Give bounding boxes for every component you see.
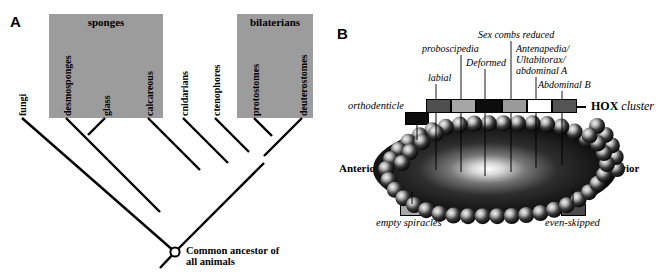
ancestor-label-line2: all animals xyxy=(186,256,235,268)
figure-root: A sponges bilaterians fungi desmosponges… xyxy=(0,0,660,276)
ancestor-node-circle xyxy=(170,247,179,256)
cladogram-lines xyxy=(0,0,330,276)
embryo-diagram xyxy=(330,0,660,276)
ancestor-label-line1: Common ancestor of xyxy=(186,245,279,257)
